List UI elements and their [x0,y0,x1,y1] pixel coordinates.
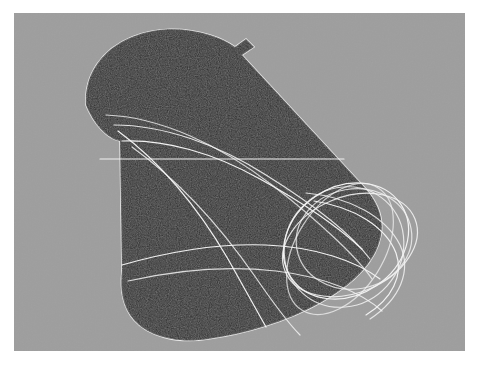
artwork-canvas [14,13,465,351]
abstract-artwork-svg [14,13,465,351]
artwork-stage: Dark organic wing form with white arc ov… [0,0,478,366]
